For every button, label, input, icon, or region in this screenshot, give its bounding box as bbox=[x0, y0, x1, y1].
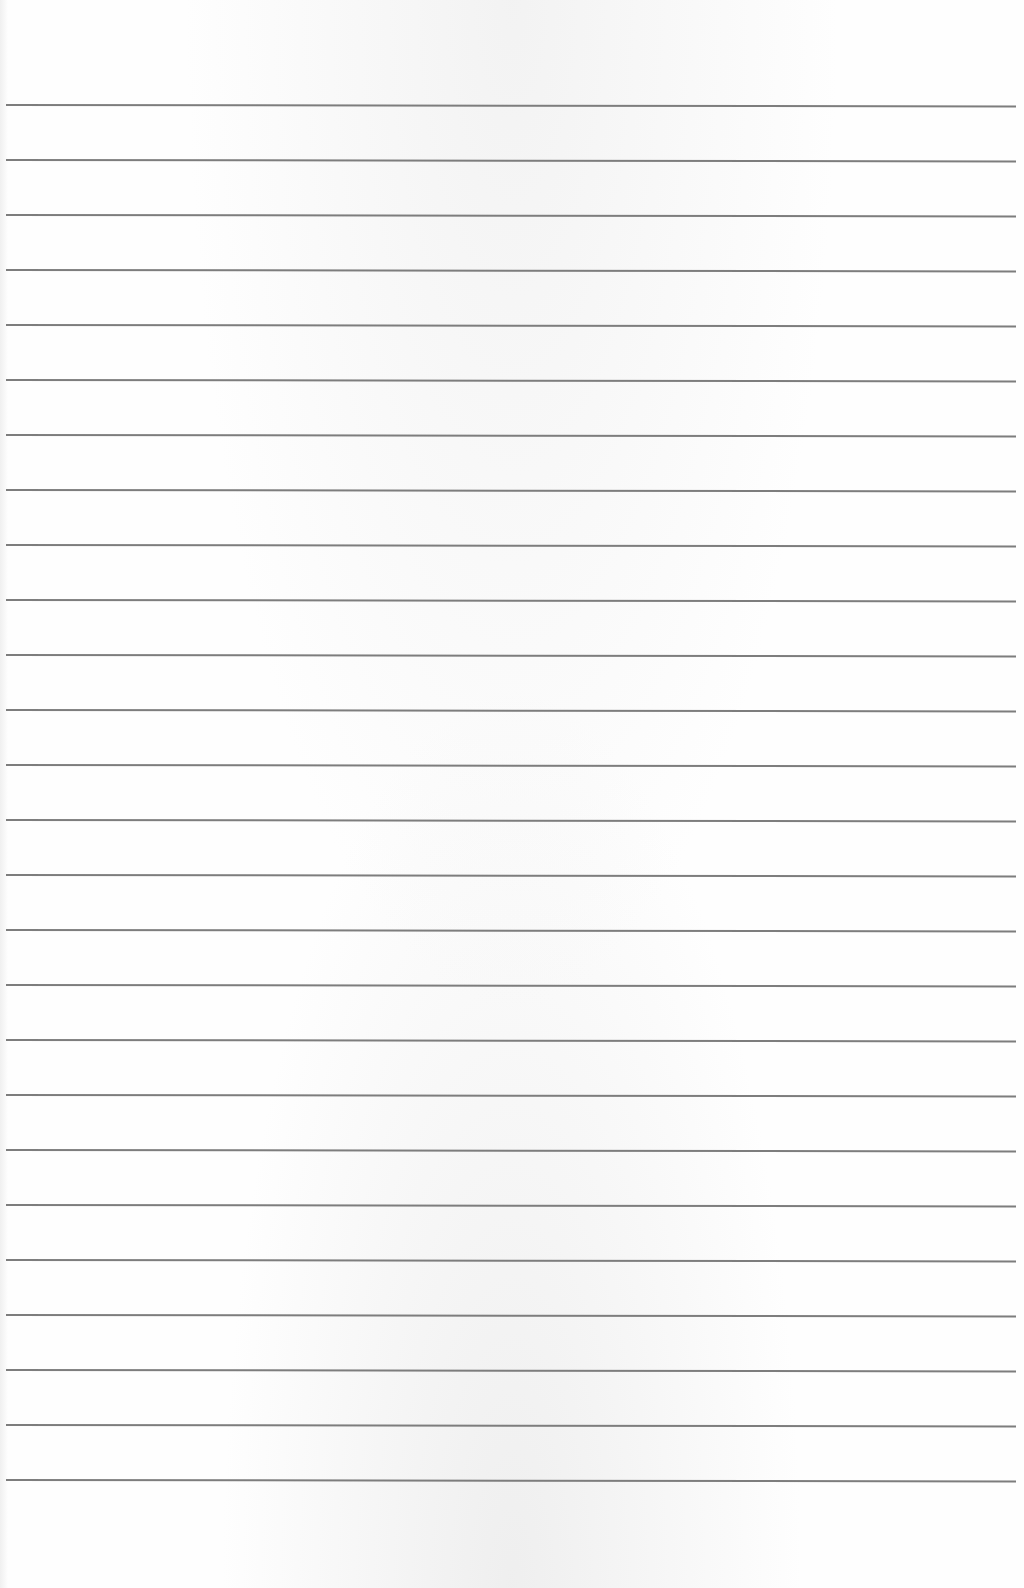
ruled-line bbox=[6, 984, 1016, 987]
ruled-line bbox=[6, 1259, 1016, 1262]
ruled-line bbox=[6, 544, 1016, 547]
ruled-line bbox=[6, 599, 1016, 602]
ruled-line bbox=[6, 159, 1016, 162]
lined-paper-sheet bbox=[0, 0, 1024, 1588]
ruled-line bbox=[6, 1204, 1016, 1207]
ruled-line bbox=[6, 929, 1016, 932]
ruled-line bbox=[6, 1424, 1016, 1427]
ruled-line bbox=[6, 269, 1016, 272]
ruled-line bbox=[6, 764, 1016, 767]
ruled-line bbox=[6, 104, 1016, 107]
ruled-line bbox=[6, 819, 1016, 822]
ruled-line bbox=[6, 379, 1016, 382]
ruled-line bbox=[6, 654, 1016, 657]
ruled-line bbox=[6, 489, 1016, 492]
ruled-line bbox=[6, 1314, 1016, 1317]
ruled-line bbox=[6, 1039, 1016, 1042]
ruled-line bbox=[6, 1369, 1016, 1372]
ruled-line bbox=[6, 1094, 1016, 1097]
ruled-line bbox=[6, 1479, 1016, 1482]
ruled-line bbox=[6, 709, 1016, 712]
ruled-line bbox=[6, 874, 1016, 877]
ruled-line bbox=[6, 434, 1016, 437]
ruled-line bbox=[6, 214, 1016, 217]
ruled-line bbox=[6, 324, 1016, 327]
ruled-line bbox=[6, 1149, 1016, 1152]
